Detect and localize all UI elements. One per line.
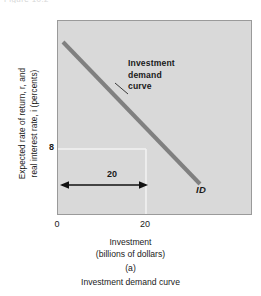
plot-svg — [58, 21, 252, 215]
y-axis-title: Expected rate of return, r, and real int… — [17, 29, 40, 219]
curve-annotation-line2: demand — [128, 70, 175, 82]
x-axis-tick-label-20: 20 — [133, 219, 157, 229]
clipped-page-header: Figure 10.2 — [4, 0, 49, 3]
curve-series-label-id: ID — [196, 184, 206, 195]
curve-annotation-line3: curve — [128, 81, 175, 93]
x-axis-title: Investment — [0, 236, 261, 248]
span-measure-label: 20 — [92, 169, 132, 179]
curve-annotation-label: Investment demand curve — [128, 58, 175, 93]
x-axis-units: (billions of dollars) — [0, 248, 261, 260]
span-measure-arrow — [60, 181, 148, 188]
y-axis-title-line2: real interest rate, i (percents) — [28, 29, 40, 219]
x-axis-tick-label-0: 0 — [45, 219, 69, 229]
figure-subtitle: Investment demand curve — [0, 276, 261, 288]
plot-area: Investment demand curve ID 20 — [57, 20, 252, 215]
y-axis-tick-label-8: 8 — [42, 142, 54, 152]
figure-caption-block: Investment (billions of dollars) (a) Inv… — [0, 236, 261, 288]
figure-part-label: (a) — [0, 262, 261, 274]
y-axis-title-line1: Expected rate of return, r, and — [17, 29, 29, 219]
curve-annotation-line1: Investment — [128, 58, 175, 70]
annotation-leader-line — [115, 83, 128, 94]
